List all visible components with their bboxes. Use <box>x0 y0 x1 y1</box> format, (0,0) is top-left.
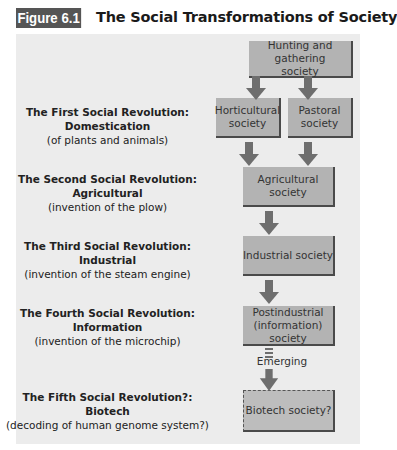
revolution-subtitle: (decoding of human genome system?) <box>0 418 215 432</box>
revolution-subtitle: (of plants and animals) <box>0 133 215 147</box>
box-label: Agricultural society <box>243 173 333 199</box>
box-label: Biotech society? <box>246 404 332 417</box>
box-label: Postindustrial (information) society <box>243 306 333 345</box>
arrow-down-icon <box>246 76 266 100</box>
box-label: Industrial society <box>243 249 333 262</box>
revolution-title: The Fifth Social Revolution?: <box>0 390 215 404</box>
arrow-down-icon <box>239 140 259 168</box>
arrow-down-icon <box>259 209 279 237</box>
revolution-subtitle: (invention of the plow) <box>0 200 215 214</box>
revolution-title: The First Social Revolution: <box>0 105 215 119</box>
arrow-down-icon <box>298 140 318 168</box>
revolution-title: The Third Social Revolution: <box>0 239 215 253</box>
revolution-second: The Second Social Revolution: Agricultur… <box>0 172 215 214</box>
revolution-first: The First Social Revolution: Domesticati… <box>0 105 215 147</box>
box-label: Pastoral society <box>288 104 351 130</box>
box-hunting-society: Hunting and gathering society <box>249 41 353 78</box>
revolution-subtitle: (invention of the steam engine) <box>0 267 215 281</box>
box-biotech-society: Biotech society? <box>243 390 335 432</box>
figure-label: Figure 6.1 <box>16 8 81 28</box>
revolution-name: Biotech <box>0 404 215 418</box>
revolution-title: The Fourth Social Revolution: <box>0 306 215 320</box>
box-pastoral-society: Pastoral society <box>288 98 353 138</box>
revolution-third: The Third Social Revolution: Industrial … <box>0 239 215 281</box>
revolution-subtitle: (invention of the microchip) <box>0 334 215 348</box>
box-label: Horticultural society <box>215 104 280 130</box>
emerging-label: Emerging <box>242 355 322 367</box>
revolution-name: Industrial <box>0 253 215 267</box>
box-horticultural-society: Horticultural society <box>216 98 281 138</box>
revolution-fifth: The Fifth Social Revolution?: Biotech (d… <box>0 390 215 432</box>
arrow-down-icon <box>298 76 318 100</box>
revolution-title: The Second Social Revolution: <box>0 172 215 186</box>
box-label: Hunting and gathering society <box>255 39 345 78</box>
revolution-name: Domestication <box>0 119 215 133</box>
figure-title: The Social Transformations of Society <box>96 9 397 25</box>
box-agricultural-society: Agricultural society <box>243 167 335 207</box>
revolution-name: Agricultural <box>0 186 215 200</box>
revolution-name: Information <box>0 320 215 334</box>
arrow-down-icon <box>259 369 279 391</box>
revolution-fourth: The Fourth Social Revolution: Informatio… <box>0 306 215 348</box>
box-postindustrial-society: Postindustrial (information) society <box>243 306 335 346</box>
arrow-down-icon <box>259 278 279 306</box>
box-industrial-society: Industrial society <box>243 236 335 276</box>
